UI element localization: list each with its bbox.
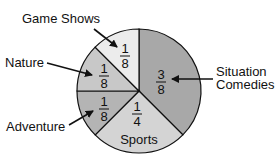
- svg-text:1: 1: [100, 94, 107, 109]
- label-nature: Nature: [5, 55, 44, 70]
- svg-text:4: 4: [133, 114, 140, 129]
- svg-text:1: 1: [133, 99, 140, 114]
- label-sitcoms-line2: Comedies: [216, 77, 275, 92]
- svg-text:8: 8: [100, 76, 107, 91]
- svg-text:3: 3: [157, 67, 164, 82]
- svg-text:8: 8: [100, 109, 107, 124]
- svg-text:1: 1: [121, 41, 128, 56]
- svg-text:8: 8: [121, 56, 128, 71]
- fraction-game-shows: 1 8: [120, 41, 130, 71]
- label-sports: Sports: [120, 132, 158, 147]
- fraction-adventure: 1 8: [99, 94, 109, 124]
- fraction-sports: 1 4: [132, 99, 142, 129]
- label-game-shows: Game Shows: [22, 11, 101, 26]
- svg-text:1: 1: [100, 61, 107, 76]
- svg-text:8: 8: [157, 82, 164, 97]
- fraction-nature: 1 8: [99, 61, 109, 91]
- label-adventure: Adventure: [6, 119, 65, 134]
- fraction-sitcoms: 3 8: [156, 67, 166, 97]
- pie-chart: 1 8 1 8 1 8 3 8 1 4 Sports Game Shows Na…: [0, 0, 277, 154]
